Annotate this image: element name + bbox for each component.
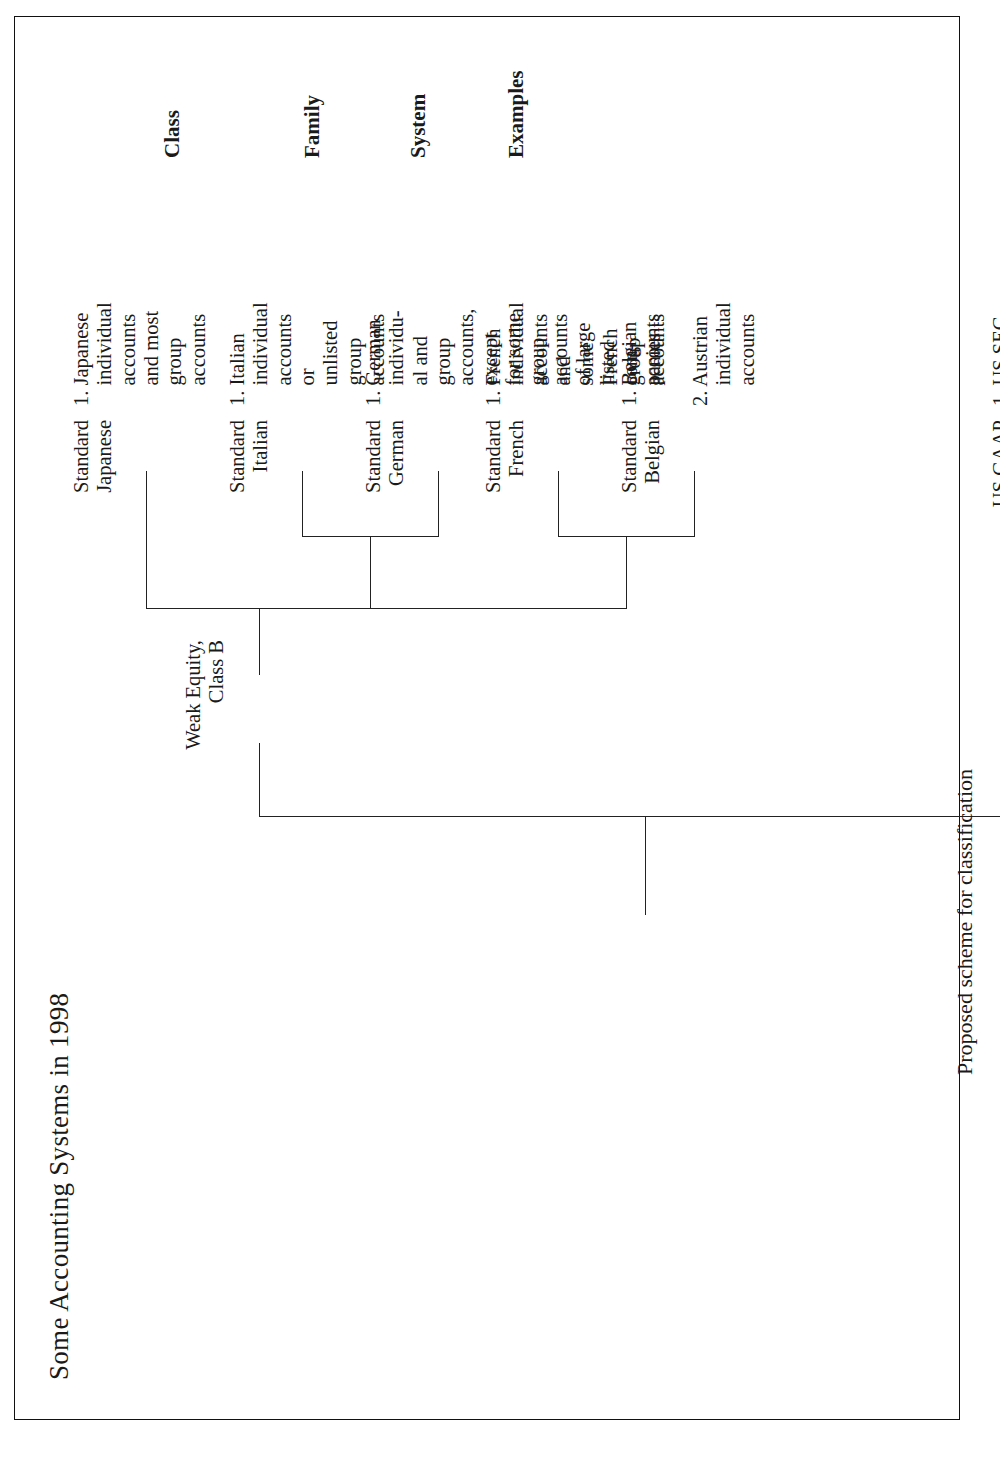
system-name-standard-german: Standard German — [362, 420, 409, 600]
system-name-standard-belgian: Standard Belgian — [618, 420, 665, 600]
tree-line-class-b-stem — [259, 609, 260, 675]
tree-line-belgian — [694, 471, 695, 537]
column-header-family: Family — [300, 95, 325, 158]
system-name-standard-japanese: Standard Japanese — [70, 420, 117, 600]
tree-line-japanese — [146, 471, 147, 609]
caption-wrapper: Proposed scheme for classification — [972, 1075, 1000, 1475]
tree-line-german — [438, 471, 439, 537]
column-header-class: Class — [160, 110, 185, 158]
column-header-system: System — [406, 94, 431, 158]
diagram-canvas: Some Accounting Systems in 1998 Class Fa… — [14, 16, 960, 1420]
tree-line-french — [558, 471, 559, 537]
rotated-diagram-content: Some Accounting Systems in 1998 Class Fa… — [14, 16, 960, 1420]
class-label-class-b: Weak Equity, Class B — [182, 640, 229, 820]
system-name-standard-french: Standard French — [482, 420, 529, 600]
examples-standard-belgian: 1. Belgian accounts — [618, 166, 665, 406]
tree-line-root-stem — [645, 817, 646, 915]
system-name-us-gaap: US GAAP — [989, 420, 1000, 600]
examples-us-gaap: 1. US SEC- register- ed company accounts… — [989, 166, 1000, 406]
examples-standard-japanese: 1. Japanese individual accounts and most… — [70, 166, 210, 406]
tree-line-class-b-span — [146, 608, 626, 609]
tree-line-class-b — [259, 743, 260, 817]
column-header-examples: Examples — [504, 70, 529, 158]
tree-line-italian — [302, 471, 303, 537]
system-name-standard-italian: Standard Italian — [226, 420, 273, 600]
tree-line-root-span — [259, 816, 1000, 817]
page-title: Some Accounting Systems in 1998 — [44, 993, 75, 1380]
figure-caption: Proposed scheme for classification — [952, 769, 978, 1075]
